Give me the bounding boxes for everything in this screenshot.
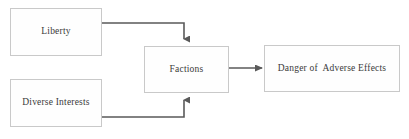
node-diverse-interests-label: Diverse Interests	[22, 97, 90, 108]
node-liberty-label: Liberty	[41, 26, 70, 37]
diagram-canvas: Liberty Diverse Interests Factions Dange…	[0, 0, 409, 139]
node-danger-of-adverse-effects[interactable]: Danger of Adverse Effects	[264, 45, 400, 92]
node-factions[interactable]: Factions	[144, 46, 229, 93]
node-liberty[interactable]: Liberty	[10, 8, 102, 56]
node-diverse-interests[interactable]: Diverse Interests	[10, 79, 102, 127]
node-danger-of-adverse-effects-label: Danger of Adverse Effects	[278, 63, 386, 74]
connector-diverse-to-factions	[102, 100, 184, 117]
node-factions-label: Factions	[170, 64, 204, 75]
connector-liberty-to-factions	[102, 23, 184, 39]
